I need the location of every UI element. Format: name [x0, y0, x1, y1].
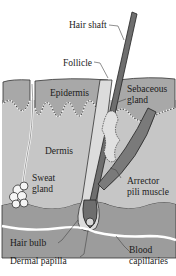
skin-cross-section-illustration — [0, 0, 176, 276]
skin-diagram: Hair shaft Follicle Epidermis Sebaceous … — [0, 0, 176, 276]
label-hair-bulb: Hair bulb — [10, 238, 46, 248]
label-dermal-papilla: Dermal papilla — [10, 256, 67, 266]
label-sweat-gland-line2: gland — [32, 184, 53, 194]
label-blood-capillaries-line2: capillaries — [129, 256, 168, 266]
label-blood-capillaries-line1: Blood — [129, 245, 152, 255]
label-arrector-line1: Arrector — [127, 176, 159, 186]
label-follicle: Follicle — [63, 58, 92, 68]
label-sebaceous-gland-line2: gland — [127, 95, 148, 105]
label-dermis: Dermis — [45, 146, 73, 156]
label-hair-shaft: Hair shaft — [69, 20, 107, 30]
label-arrector-line2: pili muscle — [127, 187, 169, 197]
label-epidermis: Epidermis — [50, 88, 89, 98]
label-sebaceous-gland-line1: Sebaceous — [127, 84, 167, 94]
dermal-papilla — [86, 218, 94, 226]
label-sweat-gland-line1: Sweat — [32, 173, 55, 183]
